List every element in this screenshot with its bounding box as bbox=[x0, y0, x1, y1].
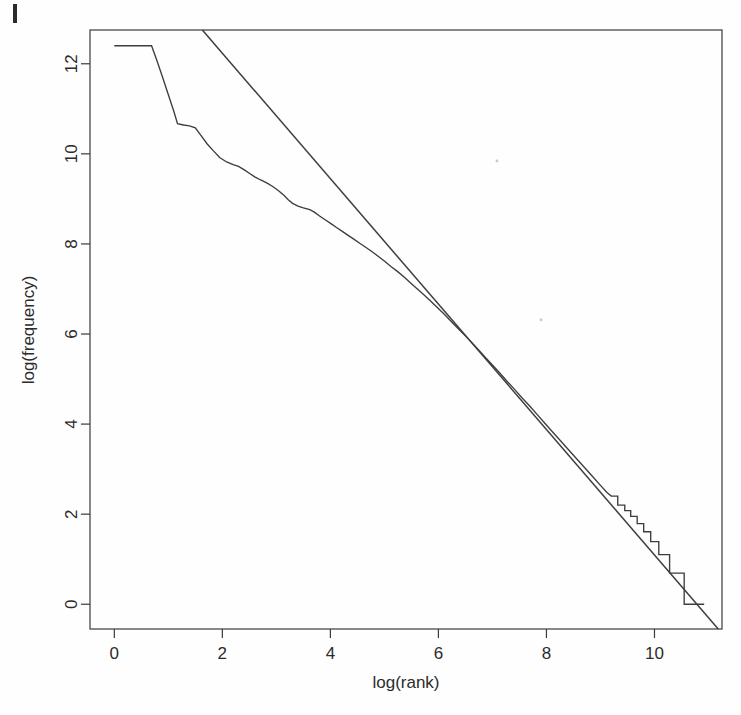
x-tick-label: 2 bbox=[218, 644, 227, 663]
y-tick-label: 0 bbox=[63, 599, 82, 608]
x-tick-label: 0 bbox=[110, 644, 119, 663]
y-tick-label: 10 bbox=[63, 144, 82, 163]
y-tick-label: 2 bbox=[63, 509, 82, 518]
y-tick-label: 12 bbox=[63, 54, 82, 73]
x-tick-label: 8 bbox=[542, 644, 551, 663]
y-tick-label: 8 bbox=[63, 239, 82, 248]
page-edge-mark-icon bbox=[13, 4, 17, 23]
x-tick-label: 6 bbox=[434, 644, 443, 663]
y-tick-label: 6 bbox=[63, 329, 82, 338]
figure-background bbox=[0, 0, 741, 715]
y-axis-title: log(frequency) bbox=[19, 276, 38, 385]
x-axis-title: log(rank) bbox=[372, 673, 439, 692]
scan-speck bbox=[496, 160, 499, 163]
x-tick-label: 4 bbox=[326, 644, 335, 663]
scan-speck bbox=[540, 319, 543, 322]
y-tick-label: 4 bbox=[63, 419, 82, 428]
x-tick-label: 10 bbox=[645, 644, 664, 663]
zipf-plot-figure: 024681012 0246810 log(rank) log(frequenc… bbox=[0, 0, 741, 715]
